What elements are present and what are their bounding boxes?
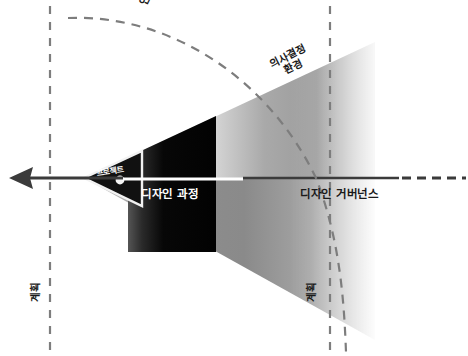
diagram-svg: [0, 0, 468, 356]
label-plan-left: 계획: [30, 283, 42, 302]
label-design-process: 디자인 과정: [141, 188, 198, 201]
label-plan-right: 계획: [306, 283, 318, 302]
diagram-canvas: 연구 의사결정 환경 장소 프로젝트 디자인 과정 디자인 거버넌스 계획 계획: [0, 0, 468, 356]
cone-lower-wedge: [84, 178, 375, 340]
axis-arrow-head: [9, 167, 33, 189]
label-design-governance: 디자인 거버넌스: [300, 188, 379, 201]
